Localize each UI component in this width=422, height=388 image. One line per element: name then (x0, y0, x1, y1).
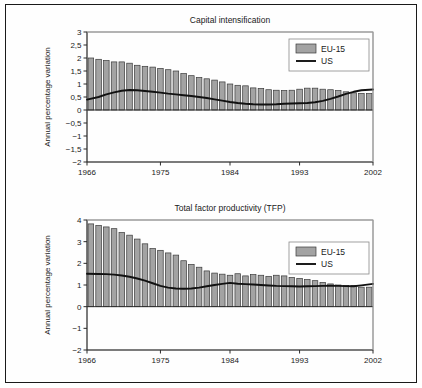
bar (142, 66, 148, 110)
bar (359, 93, 365, 110)
bar (235, 274, 241, 307)
legend-swatch-eu15 (296, 44, 316, 53)
legend-label-eu15: EU-15 (321, 44, 345, 54)
y-axis-tick-label: 2 (77, 259, 82, 268)
bar (104, 227, 110, 307)
bar (111, 62, 117, 110)
bar (119, 62, 125, 110)
tfp-chart: Total factor productivity (TFP)43210−1−2… (6, 195, 418, 382)
bar (266, 276, 272, 306)
y-axis-tick-label: 4 (77, 216, 82, 225)
bar (312, 88, 318, 110)
x-axis-tick-label: 1975 (152, 168, 170, 177)
bar (305, 280, 311, 307)
bar (127, 235, 133, 306)
y-axis-tick-label: 1 (77, 281, 82, 290)
legend-label-eu15: EU-15 (321, 247, 345, 257)
y-axis-tick-label: 2 (77, 54, 82, 63)
bar (134, 239, 140, 307)
legend-label-us: US (321, 56, 333, 66)
bar (196, 78, 202, 111)
bar (335, 285, 341, 307)
x-axis-tick-label: 1975 (152, 356, 170, 365)
y-axis-tick-label: 0 (77, 106, 82, 115)
bar (250, 275, 256, 307)
legend-swatch-eu15 (296, 247, 316, 256)
bar (235, 85, 241, 110)
bar (173, 255, 179, 307)
bar (150, 67, 156, 110)
bar (119, 233, 125, 307)
bar (297, 89, 303, 110)
bar (274, 90, 280, 110)
bar (289, 90, 295, 110)
y-axis-tick-label: 1,5 (70, 67, 82, 76)
y-axis-tick-label: −2 (72, 346, 82, 355)
y-axis-tick-label: −1 (72, 324, 82, 333)
y-axis-tick-label: 0,5 (70, 93, 82, 102)
bar (189, 264, 195, 306)
bar (127, 63, 133, 110)
bar (173, 71, 179, 110)
x-axis-tick-label: 1993 (291, 356, 309, 365)
bar (158, 250, 164, 306)
y-axis-tick-label: 0 (77, 303, 82, 312)
bar (134, 65, 140, 110)
bar (281, 91, 287, 111)
bar (158, 68, 164, 110)
bar (312, 281, 318, 307)
bar (150, 249, 156, 307)
bar (212, 80, 218, 110)
figure-frame: Capital intensification32,521,510,50−0,5… (5, 4, 417, 383)
bar (227, 84, 233, 110)
bar (212, 273, 218, 307)
bar (227, 275, 233, 306)
bar (165, 253, 171, 307)
bar (250, 88, 256, 110)
y-axis-tick-label: 3 (77, 238, 82, 247)
bar (88, 224, 94, 307)
x-axis-tick-label: 2002 (364, 356, 382, 365)
y-axis-title: Annual percentage variation (43, 235, 52, 335)
chart-title: Capital intensification (190, 15, 271, 25)
bar (335, 91, 341, 111)
bar (258, 88, 264, 110)
bar (88, 58, 94, 110)
capital-intensification-chart: Capital intensification32,521,510,50−0,5… (6, 7, 418, 195)
legend: EU-15US (289, 242, 369, 274)
bar (181, 261, 187, 307)
bar (204, 271, 210, 307)
bar (351, 93, 357, 110)
y-axis-tick-label: 3 (77, 28, 82, 37)
y-axis-tick-label: 1 (77, 80, 82, 89)
y-axis-tick-label: −1 (72, 132, 82, 141)
x-axis-tick-label: 1984 (221, 356, 239, 365)
bar (305, 88, 311, 110)
x-axis-tick-label: 1966 (78, 168, 96, 177)
bar (243, 86, 249, 110)
bar (104, 61, 110, 110)
chart-panel-capital-intensification: Capital intensification32,521,510,50−0,5… (6, 7, 418, 195)
bar (258, 275, 264, 306)
bar (343, 285, 349, 306)
y-axis-tick-label: −0,5 (66, 119, 82, 128)
y-axis-tick-label: 2,5 (70, 41, 82, 50)
bar (181, 74, 187, 110)
bar (359, 287, 365, 307)
x-axis-tick-label: 2002 (364, 168, 382, 177)
y-axis-title: Annual percentage variation (43, 47, 52, 147)
bar (243, 276, 249, 307)
bar (142, 244, 148, 307)
y-axis-tick-label: −2 (72, 158, 82, 167)
x-axis-tick-label: 1984 (221, 168, 239, 177)
bar (366, 94, 372, 110)
x-axis-tick-label: 1966 (78, 356, 96, 365)
bar (219, 82, 225, 110)
bar (274, 275, 280, 306)
legend: EU-15US (289, 39, 369, 71)
bar (96, 225, 102, 306)
bar (281, 276, 287, 307)
y-axis-tick-label: −1,5 (66, 145, 82, 154)
bar (328, 284, 334, 307)
figure-root: Capital intensification32,521,510,50−0,5… (0, 0, 422, 388)
